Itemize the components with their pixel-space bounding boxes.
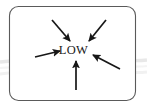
low-pressure-convergence-diagram: LOW <box>0 0 147 108</box>
center-label: LOW <box>59 43 89 57</box>
diagram-canvas: LOW <box>0 0 147 108</box>
